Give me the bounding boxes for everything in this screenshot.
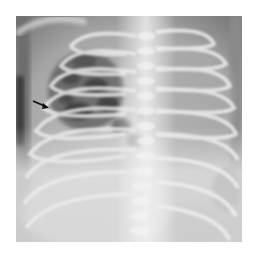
radiograph-image xyxy=(16,16,242,242)
chest-radiograph xyxy=(16,16,242,242)
